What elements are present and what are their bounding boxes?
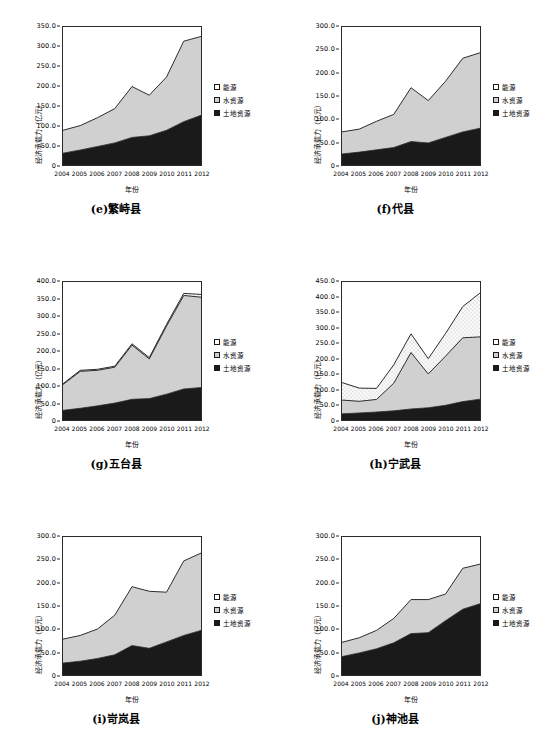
x-tick-label: 2010	[159, 680, 174, 687]
panel-inner-j: 经济承载力（亿元）050.0100.0150.0200.0250.0300.02…	[279, 518, 557, 743]
x-tick-label: 2004	[54, 425, 69, 432]
x-axis-title-e: 年份	[62, 184, 202, 194]
y-tick-mark	[336, 312, 339, 313]
plot-area-e	[62, 26, 202, 166]
x-tick-label: 2007	[386, 680, 401, 687]
x-tick-label: 2006	[89, 170, 104, 177]
y-tick-mark	[336, 559, 339, 560]
y-tick-mark	[336, 327, 339, 328]
legend-item-energy: 能源	[493, 335, 557, 348]
x-tick-label: 2010	[438, 425, 453, 432]
y-tick-label: 250.0	[315, 555, 335, 563]
x-tick-label: 2008	[124, 680, 139, 687]
legend-item-water: 水资源	[214, 348, 278, 361]
x-tick-label: 2006	[89, 680, 104, 687]
y-tick-label: 300.0	[315, 22, 335, 30]
x-tick-label: 2008	[124, 425, 139, 432]
y-tick-label: 50.0	[320, 401, 335, 409]
y-tick-mark	[57, 386, 60, 387]
y-tick-mark	[336, 421, 339, 422]
legend-item-land: 土地资源	[493, 616, 557, 629]
y-tick-mark	[336, 343, 339, 344]
y-tick-label: 50.0	[320, 649, 335, 657]
area-chart-svg-f	[342, 27, 480, 165]
x-tick-label: 2010	[159, 425, 174, 432]
y-tick-mark	[57, 652, 60, 653]
y-tick-mark	[336, 72, 339, 73]
panel-inner-f: 经济承载力（亿元）050.0100.0150.0200.0250.0300.02…	[279, 8, 557, 256]
legend-e: 能源水资源土地资源	[214, 80, 278, 119]
legend-label-energy: 能源	[502, 592, 516, 602]
x-tick-label: 2006	[368, 425, 383, 432]
panel-inner-h: 经济承载力（亿元）050.0100.0150.0200.0250.0300.03…	[279, 263, 557, 511]
y-tick-label: 150.0	[315, 602, 335, 610]
y-tick-mark	[336, 358, 339, 359]
x-tick-label: 2005	[72, 170, 87, 177]
y-tick-mark	[57, 316, 60, 317]
x-tick-label: 2008	[403, 680, 418, 687]
x-tick-label: 2007	[107, 425, 122, 432]
legend-item-land: 土地资源	[214, 106, 278, 119]
x-tick-label: 2012	[473, 170, 488, 177]
panel-caption-f: (f)代县	[279, 200, 511, 216]
x-tick-label: 2011	[456, 170, 471, 177]
legend-label-land: 土地资源	[223, 618, 251, 628]
x-tick-label: 2005	[72, 680, 87, 687]
x-tick-label: 2012	[194, 170, 209, 177]
plot-area-h	[341, 281, 481, 421]
legend-item-energy: 能源	[214, 80, 278, 93]
y-axis-ticks-e: 050.0100.0150.0200.0250.0300.0350.0	[20, 26, 60, 166]
x-axis-ticks-i: 200420052006200720082009201020112012	[62, 680, 202, 692]
y-tick-mark	[336, 49, 339, 50]
y-tick-mark	[57, 298, 60, 299]
y-tick-label: 300.0	[315, 324, 335, 332]
y-axis-ticks-f: 050.0100.0150.0200.0250.0300.0	[299, 26, 339, 166]
legend-item-land: 土地资源	[214, 616, 278, 629]
y-axis-ticks-g: 050.0100.0150.0200.0250.0300.0350.0400.0	[20, 281, 60, 421]
y-tick-mark	[57, 629, 60, 630]
x-tick-label: 2005	[351, 680, 366, 687]
panel-caption-e: (e)繁峙县	[0, 200, 232, 216]
y-tick-label: 0	[331, 417, 335, 425]
y-tick-label: 400.0	[36, 277, 56, 285]
plot-area-g	[62, 281, 202, 421]
legend-item-energy: 能源	[214, 335, 278, 348]
x-tick-label: 2007	[107, 680, 122, 687]
y-tick-label: 300.0	[36, 312, 56, 320]
x-axis-ticks-h: 200420052006200720082009201020112012	[341, 425, 481, 437]
x-axis-ticks-g: 200420052006200720082009201020112012	[62, 425, 202, 437]
x-axis-ticks-f: 200420052006200720082009201020112012	[341, 170, 481, 182]
x-tick-label: 2009	[142, 680, 157, 687]
legend-swatch-land-icon	[493, 620, 499, 626]
panel-caption-i: (i)岢岚县	[0, 710, 232, 726]
y-tick-mark	[336, 142, 339, 143]
x-tick-label: 2006	[89, 425, 104, 432]
panel-inner-e: 经济承载力（亿元）050.0100.0150.0200.0250.0300.03…	[0, 8, 278, 256]
x-tick-label: 2011	[177, 425, 192, 432]
y-tick-label: 350.0	[36, 295, 56, 303]
x-tick-label: 2009	[421, 425, 436, 432]
y-tick-mark	[336, 676, 339, 677]
x-tick-label: 2007	[107, 170, 122, 177]
y-tick-label: 200.0	[36, 82, 56, 90]
y-tick-label: 150.0	[315, 370, 335, 378]
y-tick-label: 100.0	[36, 382, 56, 390]
x-tick-label: 2005	[72, 425, 87, 432]
figure-sheet: 经济承载力（亿元）050.0100.0150.0200.0250.0300.03…	[0, 0, 557, 743]
y-tick-mark	[57, 146, 60, 147]
legend-label-energy: 能源	[223, 592, 237, 602]
legend-h: 能源水资源土地资源	[493, 335, 557, 374]
legend-swatch-land-icon	[214, 620, 220, 626]
legend-swatch-water-icon	[493, 352, 499, 358]
legend-swatch-energy-icon	[493, 594, 499, 600]
legend-item-energy: 能源	[493, 80, 557, 93]
y-tick-label: 100.0	[36, 122, 56, 130]
panel-inner-i: 经济承载力（亿元）050.0100.0150.0200.0250.0300.02…	[0, 518, 278, 743]
x-tick-label: 2004	[333, 170, 348, 177]
legend-item-water: 水资源	[214, 603, 278, 616]
y-tick-mark	[57, 66, 60, 67]
y-tick-mark	[336, 536, 339, 537]
legend-label-land: 土地资源	[223, 363, 251, 373]
y-axis-ticks-j: 050.0100.0150.0200.0250.0300.0	[299, 536, 339, 676]
legend-g: 能源水资源土地资源	[214, 335, 278, 374]
